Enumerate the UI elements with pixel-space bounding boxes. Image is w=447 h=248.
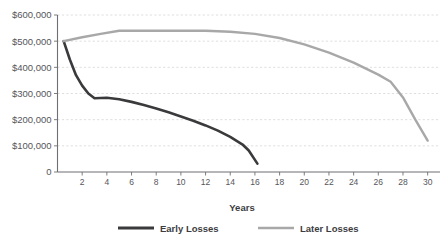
chart-canvas: $600,000$500,000$400,000$300,000$200,000… <box>0 0 447 248</box>
x-tick-label: 14 <box>226 177 236 187</box>
x-tick-label: 6 <box>129 177 134 187</box>
x-tick-label: 22 <box>324 177 334 187</box>
x-tick-label: 28 <box>398 177 408 187</box>
y-tick-label: $200,000 <box>12 114 52 125</box>
legend-label-later-losses: Later Losses <box>300 223 359 234</box>
x-tick-label: 2 <box>80 177 85 187</box>
x-tick-label: 8 <box>154 177 159 187</box>
y-tick-label: $400,000 <box>12 62 52 73</box>
y-tick-label: 0 <box>46 166 51 177</box>
legend-label-early-losses: Early Losses <box>160 223 219 234</box>
x-tick-label: 12 <box>201 177 211 187</box>
y-tick-label: $100,000 <box>12 140 52 151</box>
line-chart: $600,000$500,000$400,000$300,000$200,000… <box>0 0 447 248</box>
x-tick-label: 16 <box>250 177 260 187</box>
x-tick-label: 18 <box>275 177 285 187</box>
x-tick-label: 26 <box>374 177 384 187</box>
chart-background <box>0 0 447 248</box>
y-tick-label: $600,000 <box>12 9 52 20</box>
x-tick-label: 30 <box>423 177 433 187</box>
x-tick-label: 10 <box>176 177 186 187</box>
y-tick-label: $500,000 <box>12 36 52 47</box>
x-tick-label: 24 <box>349 177 359 187</box>
x-tick-label: 20 <box>300 177 310 187</box>
x-axis-title: Years <box>229 202 254 213</box>
y-tick-label: $300,000 <box>12 88 52 99</box>
x-tick-label: 4 <box>104 177 109 187</box>
